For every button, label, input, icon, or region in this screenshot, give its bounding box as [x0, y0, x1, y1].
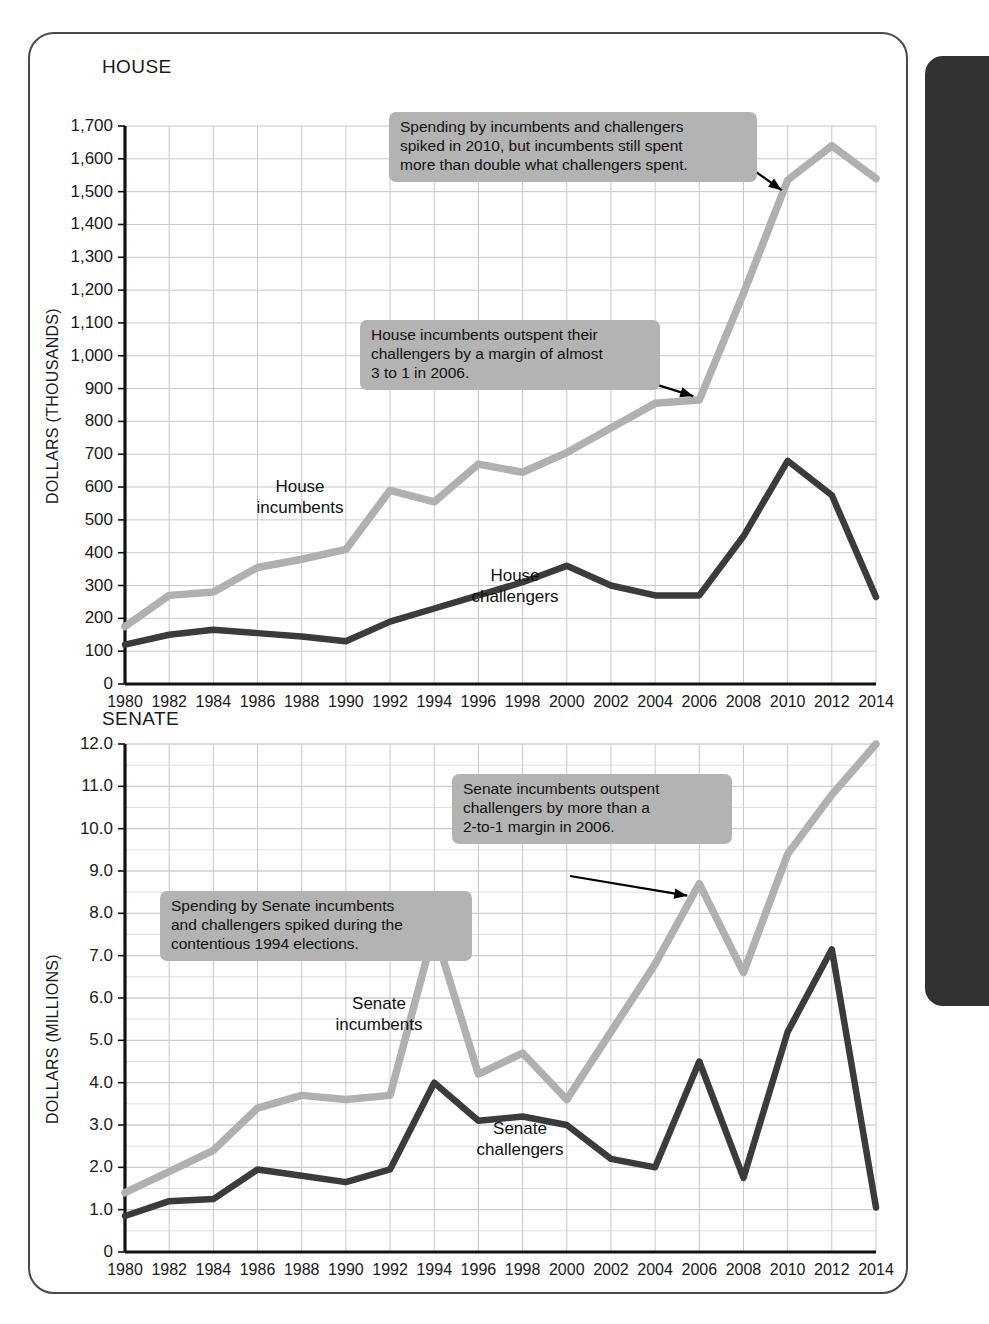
senate-incumbents-label: Senate incumbents	[336, 994, 423, 1035]
figure-page: HOUSE DOLLARS (THOUSANDS) 01002003004005…	[0, 0, 989, 1324]
house-challengers-label: House challengers	[472, 566, 559, 607]
senate-callout-2006: Senate incumbents outspent challengers b…	[452, 774, 732, 844]
house-callout-2010: Spending by incumbents and challengers s…	[389, 112, 757, 182]
senate-challengers-label: Senate challengers	[477, 1119, 564, 1160]
senate-panel: SENATE DOLLARS (MILLIONS) 01.02.03.04.05…	[30, 694, 910, 1296]
figure-card: HOUSE DOLLARS (THOUSANDS) 01002003004005…	[28, 32, 908, 1294]
house-panel: HOUSE DOLLARS (THOUSANDS) 01002003004005…	[30, 34, 910, 694]
senate-callout-1994: Spending by Senate incumbents and challe…	[160, 891, 472, 961]
house-callout-2006: House incumbents outspent their challeng…	[360, 320, 660, 390]
senate-annotation-arrow	[570, 876, 687, 899]
page-edge-shadow	[925, 56, 989, 1006]
house-incumbents-label: House incumbents	[257, 477, 344, 518]
